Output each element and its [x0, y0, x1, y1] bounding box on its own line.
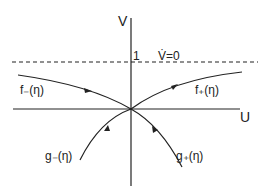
u-axis-label: U: [240, 109, 250, 125]
vdot-zero-label: V̇=0: [158, 49, 180, 63]
curve-g-minus: [80, 109, 131, 160]
curve-f-plus: [131, 72, 242, 109]
arrow-f-minus-icon: [84, 88, 92, 93]
g-minus-label: g₋(η): [45, 149, 72, 163]
f-minus-label: f₋(η): [20, 83, 44, 97]
phase-plane-diagram: V U 1 V̇=0 f₋(η) f₊(η) g₋(η) g₊(η): [0, 0, 261, 191]
arrow-f-plus-icon: [171, 84, 178, 90]
g-plus-label: g₊(η): [176, 149, 203, 163]
v-axis-label: V: [118, 13, 128, 29]
arrow-g-plus-icon: [152, 126, 158, 133]
curve-g-plus: [131, 109, 182, 167]
value-one-label: 1: [133, 49, 140, 63]
f-plus-label: f₊(η): [195, 83, 219, 97]
